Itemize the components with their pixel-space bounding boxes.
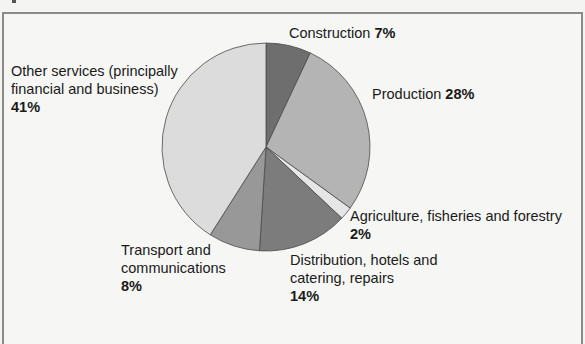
label-agriculture: Agriculture, fisheries and forestry 2% — [350, 207, 562, 243]
label-distribution-pct: 14% — [290, 288, 319, 304]
label-production-pct: 28% — [445, 86, 474, 102]
label-production-name: Production — [372, 86, 441, 102]
label-distribution-line1: Distribution, hotels and — [290, 251, 438, 269]
label-production: Production 28% — [372, 85, 474, 103]
label-transport: Transport and communications 8% — [121, 241, 226, 295]
label-transport-line2: communications — [121, 259, 226, 277]
label-construction: Construction 7% — [289, 24, 395, 42]
label-distribution-line2: catering, repairs — [290, 269, 438, 287]
label-distribution: Distribution, hotels and catering, repai… — [290, 251, 438, 305]
label-construction-name: Construction — [289, 25, 370, 41]
label-other-line1: Other services (principally — [11, 62, 178, 80]
label-other-pct: 41% — [11, 99, 40, 115]
label-agriculture-pct: 2% — [350, 226, 371, 242]
label-transport-pct: 8% — [121, 278, 142, 294]
label-other-line2: financial and business) — [11, 80, 178, 98]
label-construction-pct: 7% — [374, 25, 395, 41]
label-other-services: Other services (principally financial an… — [11, 62, 178, 116]
label-agriculture-name: Agriculture, fisheries and forestry — [350, 207, 562, 225]
label-transport-line1: Transport and — [121, 241, 226, 259]
